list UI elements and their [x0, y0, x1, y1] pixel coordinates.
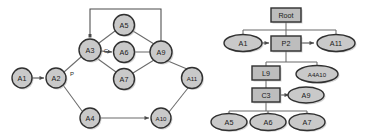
node-root-label: Root	[278, 11, 293, 20]
edge-a2-a4	[63, 85, 82, 111]
edge-a10-a11	[169, 88, 188, 112]
node-right-a5[interactable]: A5	[211, 114, 249, 133]
edge-a7-a9	[133, 60, 154, 73]
node-a4-label: A4	[86, 114, 95, 123]
node-a5[interactable]: A5	[114, 15, 137, 38]
node-right-a7[interactable]: A7	[289, 114, 327, 133]
node-l9[interactable]: L9	[252, 66, 282, 82]
node-a9-label: A9	[157, 48, 166, 57]
node-right-a9-label: A9	[302, 91, 311, 100]
node-right-a5-label: A5	[225, 118, 234, 127]
edge-a3-a5	[99, 31, 115, 43]
node-a10-label: A10	[156, 115, 167, 122]
node-root[interactable]: Root	[271, 8, 303, 24]
node-a4a10[interactable]: A4A10	[296, 66, 340, 85]
node-a2-label: A2	[52, 74, 61, 83]
node-right-a6-label: A6	[264, 118, 273, 127]
node-a1-label: A1	[18, 74, 27, 83]
node-c3[interactable]: C3	[252, 88, 282, 104]
edge-p2-bus	[266, 51, 317, 62]
node-a4a10-label: A4A10	[308, 71, 327, 78]
node-p2[interactable]: P2	[271, 36, 303, 53]
node-right-a11[interactable]: A11	[317, 35, 357, 54]
node-c3-label: C3	[261, 91, 270, 100]
node-a6[interactable]: A6	[114, 42, 137, 65]
right-graph: Root A1 P2 A11	[211, 8, 357, 132]
edge-a2-a3	[64, 57, 81, 72]
node-a3-label: A3	[86, 46, 95, 55]
node-right-a11-label: A11	[330, 39, 342, 48]
edge-label-p: P	[70, 71, 74, 77]
node-right-a1[interactable]: A1	[224, 35, 264, 54]
node-a11-label: A11	[187, 75, 198, 82]
node-a6-label: A6	[120, 48, 129, 57]
node-l9-label: L9	[262, 69, 270, 78]
node-right-a1-label: A1	[239, 39, 248, 48]
node-a7-label: A7	[120, 75, 129, 84]
node-a10[interactable]: A10	[151, 108, 173, 130]
figure-canvas: P C A1 A2 A3 A4	[0, 0, 367, 140]
edge-a3-a7	[98, 59, 116, 72]
node-right-a6[interactable]: A6	[250, 114, 288, 133]
node-right-a9[interactable]: A9	[288, 87, 326, 105]
node-right-a7-label: A7	[303, 118, 312, 127]
node-a1[interactable]: A1	[12, 68, 34, 90]
node-a11[interactable]: A11	[182, 68, 205, 91]
node-a9[interactable]: A9	[150, 41, 174, 65]
node-a4[interactable]: A4	[80, 108, 102, 130]
graph-diagram: P C A1 A2 A3 A4	[0, 0, 367, 140]
edge-a5-a9	[133, 31, 154, 44]
left-graph: P C A1 A2 A3 A4	[12, 9, 204, 130]
edge-label-c: C	[104, 48, 109, 54]
node-p2-label: P2	[282, 39, 291, 48]
node-a2[interactable]: A2	[46, 68, 68, 90]
node-a7[interactable]: A7	[114, 69, 137, 92]
node-a5-label: A5	[120, 21, 129, 30]
node-a3[interactable]: A3	[79, 39, 103, 63]
edge-a9-a11	[168, 61, 187, 69]
